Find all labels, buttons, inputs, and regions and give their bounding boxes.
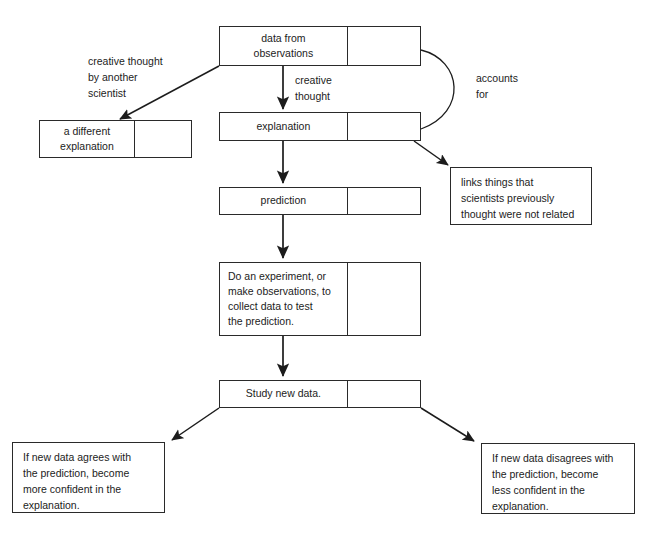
node-blank-cell[interactable] (347, 188, 420, 214)
flowchart-diagram: data from observations a different expla… (0, 0, 659, 536)
node-label: Study new data. (220, 381, 347, 407)
node-prediction[interactable]: prediction (219, 187, 421, 215)
edge-explanation-to-links-things (414, 141, 448, 165)
node-blank-cell[interactable] (347, 27, 420, 65)
edge-study-to-disagrees (421, 408, 474, 441)
node-label: prediction (220, 188, 347, 214)
edge-label-creative-thought-by-another-scientist: creative thought by another scientist (88, 54, 198, 101)
node-links-things[interactable]: links things that scientists previously … (450, 167, 592, 225)
node-blank-cell[interactable] (134, 121, 191, 157)
node-label: a different explanation (40, 121, 134, 157)
node-do-an-experiment[interactable]: Do an experiment, or make observations, … (219, 262, 421, 336)
edge-label-creative-thought: creative thought (295, 73, 365, 105)
node-blank-cell[interactable] (347, 263, 420, 335)
node-blank-cell[interactable] (347, 381, 420, 407)
node-data-from-observations[interactable]: data from observations (219, 26, 421, 66)
node-study-new-data[interactable]: Study new data. (219, 380, 421, 408)
node-blank-cell[interactable] (347, 113, 420, 140)
node-agrees-outcome[interactable]: If new data agrees with the prediction, … (12, 442, 165, 513)
node-explanation[interactable]: explanation (219, 112, 421, 141)
edge-label-accounts-for: accounts for (476, 71, 546, 103)
node-a-different-explanation[interactable]: a different explanation (39, 120, 192, 158)
node-label: data from observations (220, 27, 347, 65)
node-label: explanation (220, 113, 347, 140)
edge-study-to-agrees (172, 408, 219, 440)
edge-accounts-for-curve (421, 50, 454, 129)
node-label: Do an experiment, or make observations, … (220, 263, 347, 335)
node-disagrees-outcome[interactable]: If new data disagrees with the predictio… (481, 443, 635, 514)
